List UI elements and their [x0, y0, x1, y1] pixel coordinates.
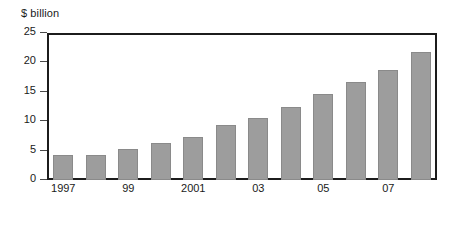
y-tick-mark — [40, 61, 47, 62]
bar — [118, 149, 138, 180]
y-axis-title: $ billion — [21, 7, 59, 19]
bar — [378, 70, 398, 180]
y-tick-label: 15 — [24, 84, 36, 96]
bar — [281, 107, 301, 181]
bar — [86, 155, 106, 180]
bar — [346, 82, 366, 180]
y-tick-label: 0 — [30, 172, 36, 184]
bar — [53, 155, 73, 180]
y-tick-label: 20 — [24, 54, 36, 66]
y-tick-label: 10 — [24, 113, 36, 125]
x-tick-label: 03 — [252, 182, 264, 194]
bar — [151, 143, 171, 180]
bar — [216, 125, 236, 180]
bars-group — [47, 33, 437, 180]
x-tick-label: 99 — [122, 182, 134, 194]
bar — [411, 52, 431, 180]
x-tick-label: 1997 — [51, 182, 75, 194]
y-tick-label: 25 — [24, 25, 36, 37]
y-tick-mark — [40, 120, 47, 121]
y-tick-mark — [40, 32, 47, 33]
x-tick-label: 07 — [382, 182, 394, 194]
y-tick-mark — [40, 150, 47, 151]
bar — [313, 94, 333, 180]
bar — [183, 137, 203, 181]
x-tick-label: 05 — [317, 182, 329, 194]
y-tick-mark — [40, 179, 47, 180]
y-tick-label: 5 — [30, 143, 36, 155]
x-axis-labels: 1997992001030507 — [47, 182, 437, 202]
y-tick-mark — [40, 91, 47, 92]
bar — [248, 118, 268, 180]
bar-chart: $ billion 0510152025 1997992001030507 — [0, 0, 451, 226]
x-tick-label: 2001 — [181, 182, 205, 194]
